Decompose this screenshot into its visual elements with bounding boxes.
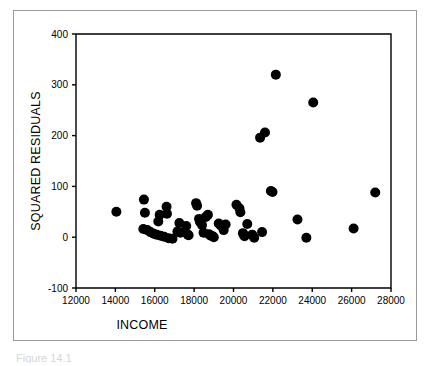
scatter-point	[181, 221, 191, 231]
y-tick-label: -100	[48, 283, 68, 294]
scatter-point	[111, 207, 121, 217]
scatter-point	[139, 195, 149, 205]
scatter-point	[162, 209, 172, 219]
x-tick-label: 24000	[298, 295, 326, 306]
scatter-point	[271, 70, 281, 80]
x-tick-label: 18000	[180, 295, 208, 306]
y-tick-label: 400	[51, 29, 68, 40]
y-tick-label: 300	[51, 79, 68, 90]
x-tick-label: 12000	[62, 295, 90, 306]
scatter-point	[257, 227, 267, 237]
scatter-point	[260, 128, 270, 138]
scatter-point	[349, 224, 359, 234]
scatter-point	[370, 188, 380, 198]
y-tick-label: 200	[51, 130, 68, 141]
scatter-point	[235, 207, 245, 217]
scatter-point	[203, 210, 213, 220]
x-tick-label: 22000	[259, 295, 287, 306]
data-points	[111, 70, 380, 244]
scatter-point	[140, 208, 150, 218]
scatter-point	[267, 187, 277, 197]
y-tick-label: 0	[62, 232, 68, 243]
scatter-point	[308, 98, 318, 108]
scatter-point	[242, 219, 252, 229]
scatter-point	[292, 214, 302, 224]
scatter-point	[192, 201, 202, 211]
scatter-chart: -1000100200300400 1200014000160001800020…	[14, 11, 418, 342]
scatter-point	[221, 220, 231, 230]
x-tick-label: 26000	[338, 295, 366, 306]
x-tick-label: 14000	[101, 295, 129, 306]
x-axis-ticks: 1200014000160001800020000220002400026000…	[62, 288, 405, 306]
y-axis-title: SQUARED RESIDUALS	[29, 91, 43, 231]
x-tick-label: 28000	[377, 295, 405, 306]
scatter-point	[209, 232, 219, 242]
scatter-point	[184, 230, 194, 240]
x-tick-label: 16000	[141, 295, 169, 306]
chart-svg: -1000100200300400 1200014000160001800020…	[14, 11, 418, 342]
scatter-point	[301, 233, 311, 243]
y-tick-label: 100	[51, 181, 68, 192]
plot-border	[76, 34, 391, 288]
figure-frame: -1000100200300400 1200014000160001800020…	[13, 10, 417, 341]
plot-axes	[76, 34, 391, 288]
figure-caption: Figure 14.1	[16, 352, 146, 363]
x-axis-title: INCOME	[116, 318, 167, 332]
y-axis-ticks: -1000100200300400	[48, 29, 76, 294]
x-tick-label: 20000	[220, 295, 248, 306]
